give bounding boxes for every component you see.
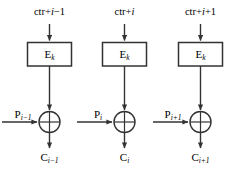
counter-label-3: ctr+i+1 (185, 7, 216, 18)
counter-label-1: ctr+i−1 (34, 7, 65, 18)
diagram-canvas (0, 0, 240, 172)
ciphertext-subscript-2: i (127, 156, 129, 165)
plaintext-label-1: Pi−1 (15, 109, 32, 122)
counter-index-offset-1: −1 (54, 6, 65, 17)
cipher-label-2: Ek (119, 48, 129, 61)
counter-index-offset-3: +1 (205, 6, 216, 17)
block-i-minus-1-graphics (2, 24, 72, 148)
cipher-key-subscript-3: k (202, 52, 205, 61)
cipher-label-3: Ek (195, 48, 205, 61)
ciphertext-subscript-3: i+1 (199, 156, 210, 165)
plaintext-subscript-3: i+1 (171, 113, 182, 122)
plaintext-label-2: Pi (94, 109, 102, 122)
ciphertext-label-1: Ci−1 (40, 152, 58, 165)
counter-label-2: ctr+i (115, 7, 135, 18)
block-i-graphics (77, 24, 147, 148)
cipher-label-1: Ek (44, 48, 54, 61)
ciphertext-label-2: Ci (120, 152, 129, 165)
cipher-key-subscript-2: k (126, 52, 129, 61)
counter-index-var-2: i (132, 6, 135, 17)
block-i-plus-1-graphics (153, 24, 223, 148)
plaintext-label-3: Pi+1 (165, 109, 182, 122)
ciphertext-subscript-1: i−1 (48, 156, 59, 165)
plaintext-subscript-1: i−1 (21, 113, 32, 122)
plaintext-subscript-2: i (100, 113, 102, 122)
cipher-key-subscript-1: k (51, 52, 54, 61)
ciphertext-label-3: Ci+1 (191, 152, 209, 165)
ctr-mode-diagram: ctr+i−1 Ek Pi−1 Ci−1 ctr+i Ek Pi Ci ctr+… (0, 0, 240, 172)
